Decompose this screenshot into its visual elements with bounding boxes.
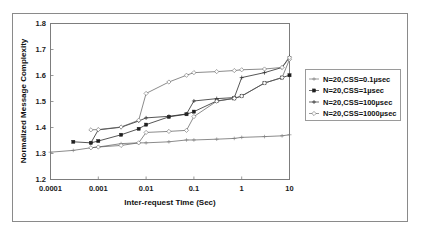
data-point-marker-square [137,127,140,130]
data-point-marker-diamond [262,67,266,71]
data-point-marker-plus [71,149,75,153]
data-point-marker-square [192,110,195,113]
data-point-marker-diamond [167,129,171,133]
data-point-marker-plus [232,137,236,141]
data-point-marker-plus [240,136,244,140]
data-point-marker-plus [280,134,284,138]
y-tick-label: 1.7 [36,45,46,54]
data-point-marker-diamond [232,68,236,72]
data-point-marker-diamond [184,73,188,77]
data-point-marker-diamond [96,127,100,131]
series-polyline [73,75,289,143]
data-series [49,133,292,154]
x-axis-tick-labels: 0.00010.0010.010.1110 [39,184,294,193]
data-point-marker-plus [215,137,219,141]
data-point-marker-diamond [167,80,171,84]
data-point-marker-square [145,123,148,126]
data-series-layer [49,55,292,154]
x-tick-label: 0.001 [89,184,108,193]
series-polyline [91,57,290,143]
legend-label: N=20,CSS=1000µsec [323,109,397,118]
series-polyline [51,135,290,152]
data-point-marker-plus [240,76,244,80]
data-point-marker-plus [167,140,171,144]
data-point-marker-square [97,139,100,142]
data-point-marker-plus [263,135,267,139]
data-series [72,74,291,145]
message-complexity-line-chart: 1.21.31.41.51.61.71.8 0.00010.0010.010.1… [0,0,421,235]
data-point-marker-plus [288,133,292,137]
data-point-marker-diamond [96,145,100,149]
y-tick-label: 1.8 [36,19,46,28]
plot-area-frame [51,24,290,180]
legend-label: N=20,CSS=0.1µsec [323,75,390,84]
data-point-marker-diamond [89,146,93,150]
data-point-marker-diamond [240,68,244,72]
data-series [89,55,292,145]
data-point-marker-plus [144,141,148,145]
series-polyline [91,58,290,130]
chart-legend: N=20,CSS=0.1µsecN=20,CSS=1µsecN=20,CSS=1… [306,70,401,121]
data-point-marker-diamond [192,114,196,118]
data-point-marker-diamond [119,125,123,129]
data-point-marker-plus [144,116,148,120]
y-axis-title: Normalized Message Complexity [19,38,28,163]
data-point-marker-plus [184,138,188,142]
data-series [89,57,292,150]
data-point-marker-square [312,89,315,92]
data-point-marker-square [72,140,75,143]
legend-label: N=20,CSS=1µsec [323,86,384,95]
data-point-marker-diamond [215,70,219,74]
data-point-marker-diamond [89,128,93,132]
x-tick-label: 10 [285,184,293,193]
data-point-marker-diamond [144,91,148,95]
data-point-marker-diamond [192,71,196,75]
data-point-marker-plus [192,138,196,142]
x-axis-title: Inter-request Time (Sec) [124,198,216,207]
y-tick-label: 1.3 [36,149,46,158]
x-tick-label: 0.1 [189,184,199,193]
legend-label: N=20,CSS=100µsec [323,98,392,107]
y-tick-label: 1.4 [36,123,47,132]
data-series [89,56,292,132]
y-tick-label: 1.6 [36,71,46,80]
data-point-marker-diamond [184,128,188,132]
y-tick-label: 1.2 [36,175,46,184]
data-point-marker-square [120,133,123,136]
figure-container: 1.21.31.41.51.61.71.8 0.00010.0010.010.1… [0,0,421,235]
x-tick-label: 1 [240,184,244,193]
x-tick-label: 0.01 [139,184,154,193]
data-point-marker-plus [192,99,196,103]
y-axis-tick-labels: 1.21.31.41.51.61.71.8 [36,19,47,184]
x-tick-label: 0.0001 [39,184,62,193]
data-point-marker-square [288,74,291,77]
legend-item[interactable]: N=20,CSS=1000µsec [309,109,397,118]
y-tick-label: 1.5 [36,97,46,106]
